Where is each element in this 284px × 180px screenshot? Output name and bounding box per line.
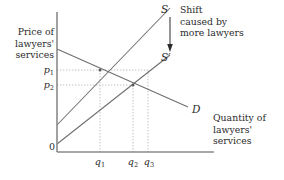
equilibrium-point-original xyxy=(99,69,102,72)
quantity-tick-q2-subscript: 2 xyxy=(134,161,138,169)
price-tick-p2-base: p xyxy=(44,79,50,90)
supply-curve-label: S xyxy=(161,4,173,16)
x-axis-label: Quantity of lawyers' services xyxy=(213,112,281,147)
price-tick-p2-subscript: 2 xyxy=(50,84,54,92)
origin-label: 0 xyxy=(44,141,55,153)
supply-shift-curve xyxy=(57,55,170,144)
supply-curve xyxy=(57,8,170,125)
shift-annotation-label: Shift caused by more lawyers xyxy=(180,4,280,39)
quantity-tick-q1: q1 xyxy=(92,156,108,170)
demand-curve-label: D xyxy=(192,104,204,116)
price-tick-p2: p2 xyxy=(37,79,54,93)
y-axis-label: Price of lawyers' services xyxy=(6,26,54,61)
price-tick-p1-base: p xyxy=(44,64,50,75)
price-tick-p1-subscript: 1 xyxy=(50,69,54,77)
supply-shift-curve-label: S′ xyxy=(161,52,175,64)
quantity-tick-q3-subscript: 3 xyxy=(150,161,154,169)
shift-arrow xyxy=(167,17,173,52)
equilibrium-point-new xyxy=(132,84,135,87)
quantity-tick-q3: q3 xyxy=(141,156,157,170)
supply-demand-figure: Price of lawyers' services Quantity of l… xyxy=(0,0,284,180)
quantity-tick-q2: q2 xyxy=(125,156,141,170)
quantity-tick-q1-subscript: 1 xyxy=(101,161,105,169)
price-tick-p1: p1 xyxy=(37,64,54,78)
